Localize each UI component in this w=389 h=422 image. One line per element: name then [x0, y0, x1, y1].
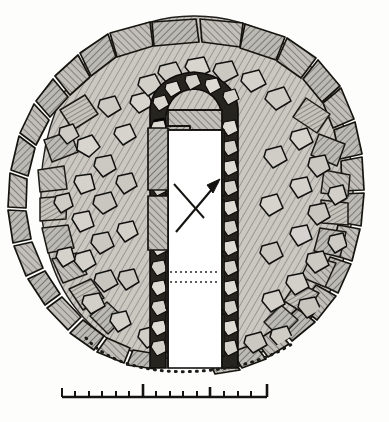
scale-bar-minor-ticks: [62, 388, 251, 397]
plate: 5 10 15 FEET.: [0, 0, 389, 422]
scale-bar-major-ticks: [143, 384, 267, 397]
orthostat-notch: [148, 128, 168, 250]
scale-bar: 5 10 15 FEET.: [0, 366, 389, 422]
chamber-void: [168, 130, 222, 368]
plan-drawing: [0, 0, 389, 378]
scale-bar-svg: [0, 366, 389, 422]
plan-svg: [0, 0, 389, 378]
